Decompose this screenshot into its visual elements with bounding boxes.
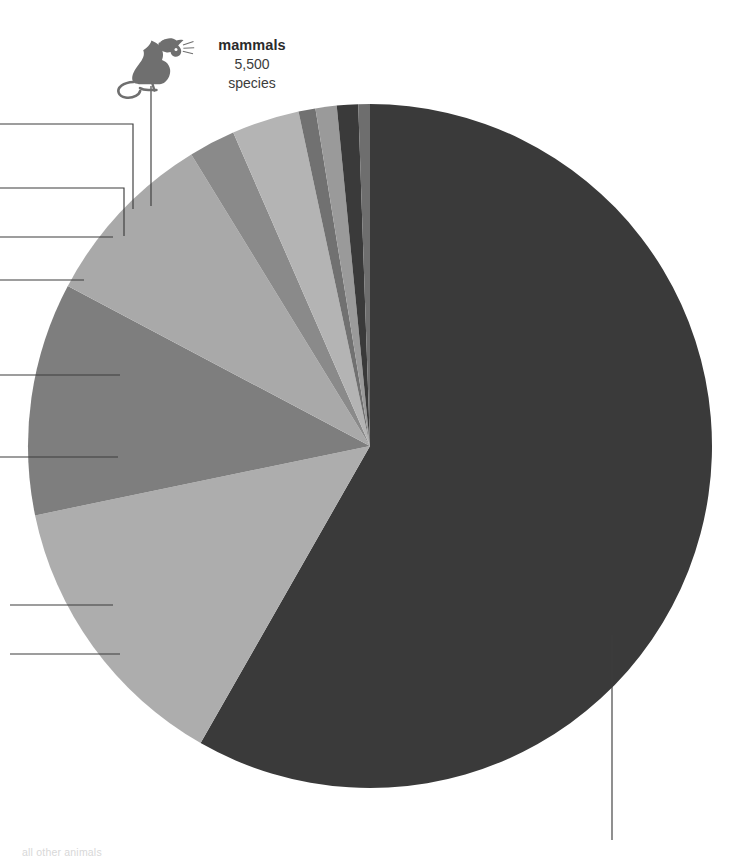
leader-line-1 xyxy=(0,124,133,209)
callout-mammals-label: mammals xyxy=(186,36,318,55)
footnote-text: all other animals xyxy=(22,846,102,858)
callout-mammals-count: 5,500 xyxy=(186,55,318,73)
rat-icon xyxy=(118,38,194,97)
leader-line-2 xyxy=(0,188,124,236)
callout-mammals: mammals 5,500 species xyxy=(186,36,318,92)
pie-chart-figure: mammals 5,500 species all other animals xyxy=(0,0,738,858)
pie-chart-canvas xyxy=(0,0,738,858)
pie-slice-group xyxy=(28,104,712,788)
callout-mammals-unit: species xyxy=(186,74,318,92)
